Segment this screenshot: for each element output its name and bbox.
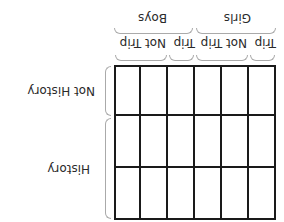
row-divider — [116, 166, 274, 168]
column-divider — [193, 67, 195, 218]
brace-boys — [114, 28, 193, 34]
brace-boys-not-trip — [115, 55, 167, 61]
column-divider — [139, 67, 141, 218]
row-label-history: History — [47, 162, 90, 176]
row-label-not-history: Not History — [27, 84, 95, 98]
column-label-boys-trip: Trip — [174, 36, 195, 50]
brace-girls-trip — [250, 55, 275, 61]
group-label-boys: Boys — [138, 11, 167, 25]
two-way-table-diagram: Trip Not Trip Trip Not Trip Girls Boys H… — [0, 0, 284, 222]
brace-history — [105, 118, 111, 219]
group-label-girls: Girls — [224, 11, 251, 25]
brace-girls — [196, 28, 276, 34]
brace-girls-not-trip — [196, 55, 248, 61]
table-grid — [114, 65, 276, 220]
column-divider — [220, 67, 222, 218]
brace-boys-trip — [169, 55, 194, 61]
row-divider — [116, 114, 274, 116]
column-divider — [247, 67, 249, 218]
brace-not-history — [105, 66, 111, 116]
column-label-boys-not-trip: Not Trip — [120, 36, 166, 50]
column-label-girls-not-trip: Not Trip — [201, 36, 247, 50]
column-label-girls-trip: Trip — [255, 36, 276, 50]
column-divider — [166, 67, 168, 218]
